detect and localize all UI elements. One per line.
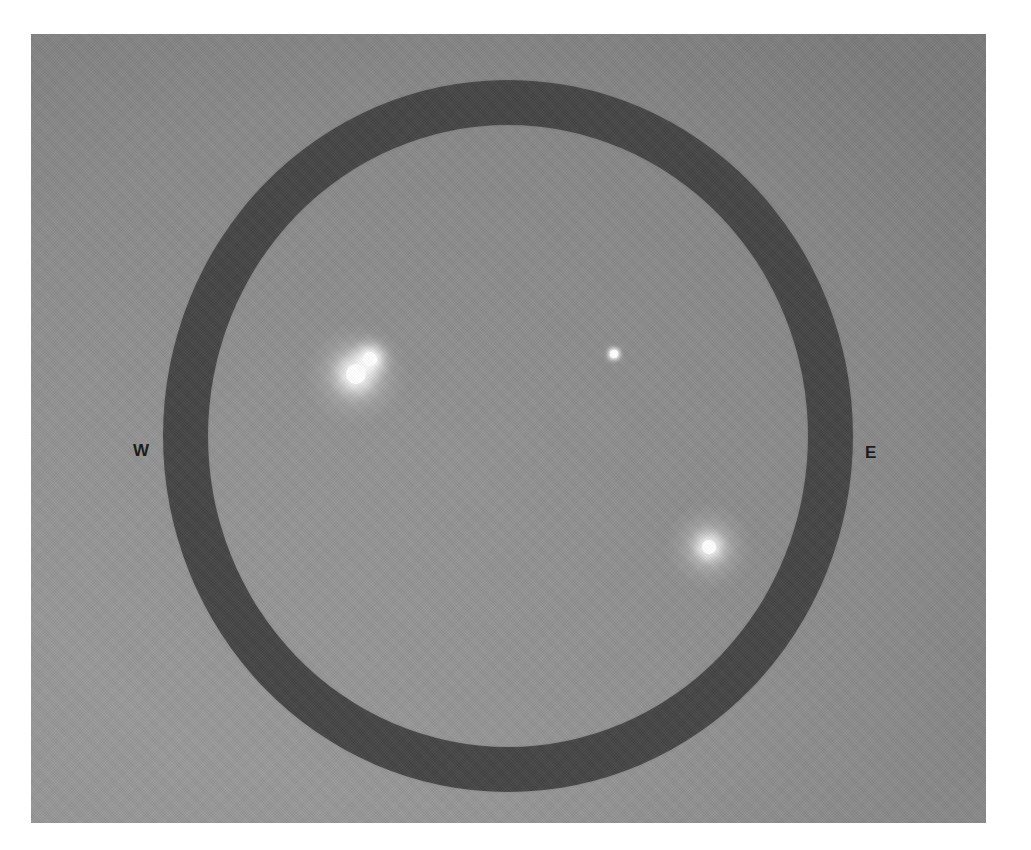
object-faint-center <box>610 350 618 358</box>
astronomical-image-figure: WE <box>0 0 1031 850</box>
cardinal-label-w: W <box>133 442 149 459</box>
occulting-ring <box>163 80 853 792</box>
image-plate <box>31 34 986 823</box>
object-primary <box>346 364 366 384</box>
object-lower-right <box>702 540 716 554</box>
object-companion <box>363 352 377 366</box>
cardinal-label-e: E <box>865 444 877 461</box>
